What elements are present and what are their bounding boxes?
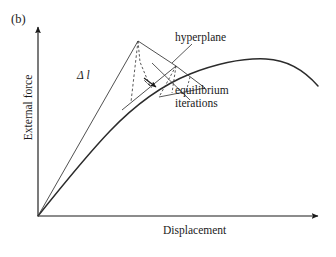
equilibrium-path-curve	[38, 59, 318, 216]
arc-length-annotation: Δ l	[77, 69, 90, 82]
iteration-zigzag-path	[138, 41, 152, 88]
hyperplane-outer-vertical-dashed	[131, 41, 138, 102]
x-axis-label: Displacement	[163, 224, 226, 237]
panel-label: (b)	[11, 12, 26, 26]
figure-container: (b) External force Displacement Δ l hype…	[0, 0, 336, 257]
figure-drawing	[0, 0, 336, 257]
hyperplane-annotation: hyperplane	[175, 31, 226, 44]
equilibrium-annotation-line1: equilibrium	[175, 84, 229, 96]
equilibrium-annotation-line2: iterations	[175, 97, 218, 109]
arc-length-predictor-line	[38, 41, 138, 216]
hyperplane-outer-right-edge	[138, 41, 176, 66]
hyperplane-outer-base	[122, 66, 176, 110]
y-axis-label: External force	[22, 59, 35, 155]
equilibrium-iterations-annotation: equilibriumiterations	[175, 84, 229, 110]
hyperplane-leader-line	[172, 44, 192, 63]
